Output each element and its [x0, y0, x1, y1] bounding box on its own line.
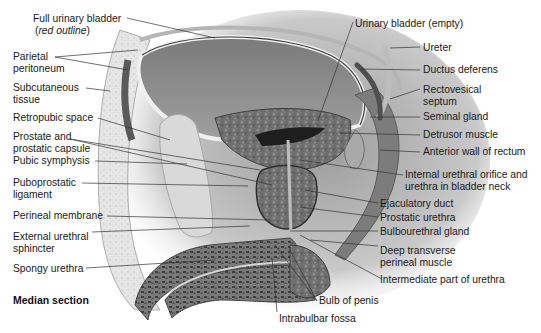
label-ureter: Ureter — [423, 42, 452, 54]
label-spongy-urethra: Spongy urethra — [13, 263, 83, 275]
label-text: Subcutaneous — [13, 82, 79, 94]
label-text: ligament — [13, 189, 76, 201]
label-ejaculatory-duct: Ejaculatory duct — [380, 198, 453, 210]
label-text: Spongy urethra — [13, 263, 83, 275]
label-full-urinary-bladder: Full urinary bladder (red outline) — [33, 13, 121, 36]
label-text: sphincter — [13, 243, 89, 255]
label-text: Prostatic urethra — [380, 212, 456, 224]
label-text: prostatic capsule — [13, 143, 90, 155]
label-deep-transverse-perineal: Deep transverse perineal muscle — [380, 245, 456, 268]
label-text: Bulbourethral gland — [380, 226, 469, 238]
label-intermediate-urethra: Intermediate part of urethra — [380, 274, 505, 286]
label-pubic-symphysis: Pubic symphysis — [13, 155, 90, 167]
label-text: Pubic symphysis — [13, 155, 90, 167]
label-text: ) — [87, 25, 90, 36]
label-text: Retropubic space — [13, 112, 93, 124]
label-bulbourethral-gland: Bulbourethral gland — [380, 226, 469, 238]
label-text: Ductus deferens — [423, 64, 498, 76]
label-text: Bulb of penis — [319, 295, 379, 307]
label-text: Anterior wall of rectum — [423, 146, 525, 158]
label-text: Internal urethral orifice and — [405, 169, 528, 181]
label-perineal-membrane: Perineal membrane — [13, 210, 103, 222]
label-text: Intermediate part of urethra — [380, 274, 505, 286]
label-text: urethra in bladder neck — [405, 181, 528, 193]
label-prostate-capsule: Prostate and prostatic capsule — [13, 131, 90, 154]
label-anterior-wall-rectum: Anterior wall of rectum — [423, 146, 525, 158]
label-text: Urinary bladder (empty) — [355, 18, 463, 30]
label-text-italic: red outline — [38, 25, 86, 36]
label-text: tissue — [13, 94, 79, 106]
label-text: Rectovesical — [423, 84, 481, 96]
label-bulb-of-penis: Bulb of penis — [319, 295, 379, 307]
label-ductus-deferens: Ductus deferens — [423, 64, 498, 76]
label-parietal-peritoneum: Parietal peritoneum — [13, 51, 65, 74]
label-rectovesical-septum: Rectovesical septum — [423, 84, 481, 107]
label-external-urethral-sphincter: External urethral sphincter — [13, 231, 89, 254]
figure-caption: Median section — [13, 294, 89, 306]
label-text: Ureter — [423, 42, 452, 54]
label-text: perineal muscle — [380, 257, 456, 269]
label-subcutaneous-tissue: Subcutaneous tissue — [13, 82, 79, 105]
label-internal-urethral-orifice: Internal urethral orifice and urethra in… — [405, 169, 528, 192]
label-seminal-gland: Seminal gland — [423, 111, 488, 123]
label-text: (red outline) — [33, 25, 121, 37]
label-urinary-bladder-empty: Urinary bladder (empty) — [355, 18, 463, 30]
label-text: septum — [423, 96, 481, 108]
label-text: Detrusor muscle — [423, 129, 498, 141]
label-text: External urethral — [13, 231, 89, 243]
label-intrabulbar-fossa: Intrabulbar fossa — [279, 313, 356, 325]
label-detrusor-muscle: Detrusor muscle — [423, 129, 498, 141]
label-text: Intrabulbar fossa — [279, 313, 356, 325]
label-text: Ejaculatory duct — [380, 198, 453, 210]
prostate-shape — [256, 166, 317, 229]
label-puboprostatic-ligament: Puboprostatic ligament — [13, 177, 76, 200]
label-text: Full urinary bladder — [33, 13, 121, 25]
label-text: Deep transverse — [380, 245, 456, 257]
label-retropubic-space: Retropubic space — [13, 112, 93, 124]
label-text: Perineal membrane — [13, 210, 103, 222]
label-text: Prostate and — [13, 131, 90, 143]
label-text: peritoneum — [13, 63, 65, 75]
label-text: Parietal — [13, 51, 65, 63]
anatomy-figure: Full urinary bladder (red outline) Parie… — [0, 0, 541, 333]
label-text: Puboprostatic — [13, 177, 76, 189]
label-prostatic-urethra: Prostatic urethra — [380, 212, 456, 224]
label-text: Seminal gland — [423, 111, 488, 123]
